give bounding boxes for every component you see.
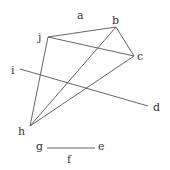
segment-j-h — [30, 37, 48, 126]
segments-group — [20, 27, 148, 148]
segment-b-c — [116, 27, 134, 56]
label-b: b — [112, 14, 119, 27]
segment-j-b — [48, 27, 116, 37]
segment-j-c — [48, 37, 134, 56]
label-j: j — [36, 31, 41, 44]
segment-i-d — [20, 69, 148, 106]
label-h: h — [18, 125, 25, 138]
label-g: g — [36, 140, 43, 153]
label-a: a — [77, 9, 84, 22]
label-i: i — [11, 64, 15, 77]
geometry-diagram: abjcidhgef — [0, 0, 170, 170]
label-d: d — [153, 101, 160, 114]
label-f: f — [67, 153, 72, 166]
label-c: c — [137, 50, 143, 63]
label-e: e — [98, 140, 105, 153]
